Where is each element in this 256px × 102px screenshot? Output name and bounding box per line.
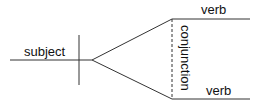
sentence-diagram: subject verb verb conjunction [0,0,256,102]
verb-top-label: verb [201,2,226,17]
conjunction-label: conjunction [178,25,193,91]
verb-bottom-label: verb [206,83,231,98]
subject-label: subject [24,44,66,59]
fork-upper [92,19,172,60]
fork-lower [92,60,172,99]
